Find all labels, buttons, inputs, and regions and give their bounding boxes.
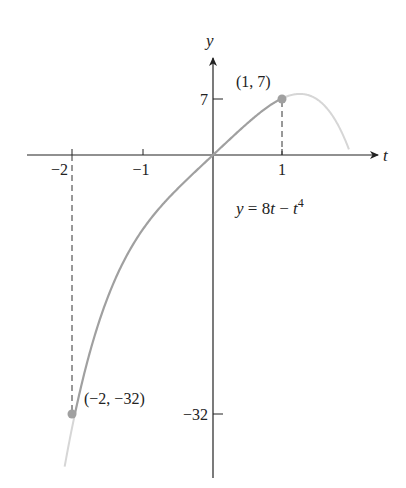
x-tick-label-1: 1 [278,161,286,178]
point-neg2-neg32 [68,410,77,419]
x-axis-label: t [383,146,389,165]
point-1-7 [278,95,287,104]
curve-main [75,98,282,413]
x-tick-label-neg2: −2 [51,161,68,178]
plot-canvas: t y −2 −1 1 7 −32 (1, 7) (−2, −32) y = 8… [0,0,406,488]
y-axis-label: y [204,31,214,50]
equation-label: y = 8t − t4 [234,196,304,218]
y-tick-label-7: 7 [200,91,208,108]
y-tick-label-neg32: −32 [183,406,208,423]
point-label-1-7: (1, 7) [236,73,271,91]
x-tick-label-neg1: −1 [132,161,149,178]
point-label-neg2-neg32: (−2, −32) [84,390,145,408]
